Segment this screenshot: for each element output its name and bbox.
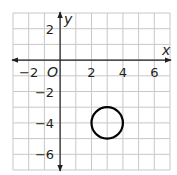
y-axis-label: y bbox=[63, 11, 73, 27]
x-tick-label: 6 bbox=[150, 65, 158, 80]
x-tick-label: 2 bbox=[87, 65, 95, 80]
y-tick-label: −2 bbox=[35, 85, 54, 100]
origin-label: O bbox=[47, 64, 58, 80]
x-tick-label: −2 bbox=[19, 65, 38, 80]
x-axis-label: x bbox=[161, 42, 171, 58]
x-tick-label: 4 bbox=[119, 65, 127, 80]
y-tick-label: −6 bbox=[35, 147, 54, 162]
y-tick-label: 2 bbox=[46, 22, 54, 37]
coordinate-plane: −22462−2−4−6 x y O bbox=[0, 0, 177, 175]
y-tick-label: −4 bbox=[35, 116, 54, 131]
